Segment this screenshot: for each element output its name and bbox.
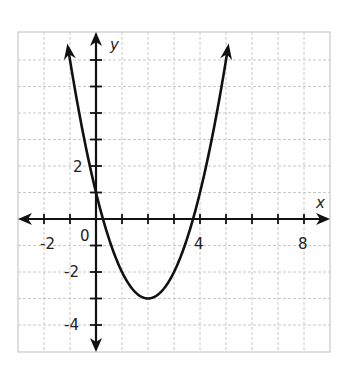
- origin-label: 0: [80, 227, 90, 245]
- y-tick-label-minus2: -2: [64, 263, 79, 281]
- x-axis-label: x: [315, 194, 325, 212]
- x-tick-label-4: 4: [194, 235, 204, 253]
- y-tick-label-2: 2: [73, 158, 83, 176]
- x-tick-label-8: 8: [298, 235, 308, 253]
- y-axis-label: y: [109, 36, 120, 54]
- grid: [18, 32, 330, 352]
- parabola-chart: y x -2 0 4 8 2 -2 -4: [0, 0, 347, 374]
- y-tick-label-minus4: -4: [64, 316, 79, 334]
- x-tick-label-minus2: -2: [40, 235, 55, 253]
